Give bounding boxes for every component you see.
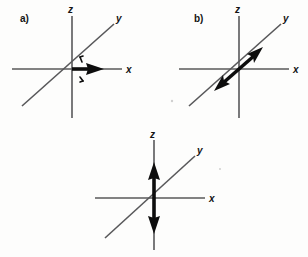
panel-a-x-label: x	[125, 64, 132, 75]
panel-a-z-label: z	[67, 4, 73, 15]
figure-root: a) z y x b) z y x	[0, 0, 308, 257]
panel-b: b) z y x	[154, 0, 308, 128]
scan-speck	[171, 100, 173, 102]
panel-c-y-label: y	[196, 145, 203, 156]
panel-c-z-label: z	[149, 129, 155, 140]
panel-a-y-axis	[22, 24, 114, 106]
panel-a-y-label: y	[115, 13, 122, 24]
panel-c-y-axis	[105, 156, 195, 238]
panel-c-x-label: x	[208, 193, 215, 204]
panel-b-y-label: y	[282, 13, 289, 24]
panel-b-x-label: x	[292, 64, 299, 75]
scan-speck	[219, 168, 221, 170]
panel-b-label: b)	[194, 13, 203, 24]
panel-a-vector-arrow	[72, 63, 104, 75]
panel-a: a) z y x	[0, 0, 154, 128]
panel-b-z-label: z	[234, 4, 240, 15]
panel-c: z y x	[77, 128, 231, 257]
panel-b-y-axis	[189, 24, 281, 106]
panel-a-label: a)	[20, 13, 29, 24]
